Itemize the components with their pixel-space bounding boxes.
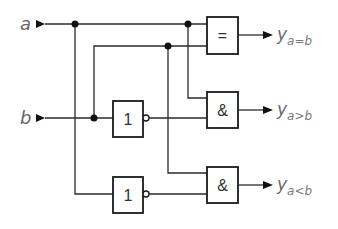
svg-text:ya=b: ya=b [276, 24, 312, 48]
inversion-bubble-icon [143, 115, 149, 121]
junction-dot [165, 43, 172, 50]
output-label-sub: a=b [287, 34, 312, 48]
junction-dot [91, 115, 98, 122]
junction-dot [72, 21, 79, 28]
input-arrow-b-icon [36, 114, 45, 122]
gate-label: & [217, 102, 228, 119]
output-label-sub: a>b [287, 109, 312, 123]
gate-label: & [217, 177, 228, 194]
junction-dot [185, 21, 192, 28]
gate-not-b: 1 [113, 101, 149, 137]
gate-label: 1 [124, 111, 133, 128]
gate-equivalence: = [207, 17, 238, 54]
gate-not-a: 1 [113, 177, 149, 213]
input-label-b: b [20, 107, 31, 128]
input-arrow-a-icon [36, 20, 45, 28]
gate-and-gt: & [207, 92, 238, 128]
gate-label: 1 [124, 187, 133, 204]
svg-text:ya<b: ya<b [276, 174, 312, 198]
output-lt: ya<b [238, 174, 312, 198]
inversion-bubble-icon [143, 191, 149, 197]
gate-and-lt: & [207, 167, 238, 203]
gate-label: = [218, 27, 227, 44]
output-eq: ya=b [238, 24, 312, 48]
output-label-sub: a<b [287, 184, 312, 198]
output-arrow-icon [263, 31, 273, 39]
input-label-a: a [20, 13, 31, 34]
output-gt: ya>b [238, 99, 312, 123]
svg-text:ya>b: ya>b [276, 99, 312, 123]
output-arrow-icon [263, 106, 273, 114]
output-arrow-icon [263, 181, 273, 189]
comparator-diagram: a b = 1 & 1 [0, 0, 338, 229]
